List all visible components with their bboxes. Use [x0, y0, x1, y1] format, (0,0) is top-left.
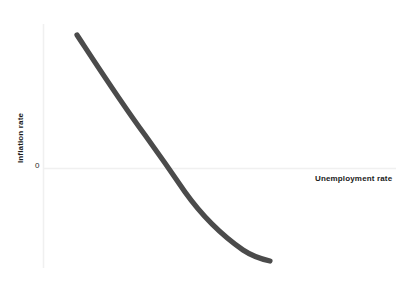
x-axis-label: Unemployment rate	[315, 174, 392, 183]
chart-canvas	[0, 0, 420, 285]
y-axis-zero-tick-label: 0	[35, 161, 40, 170]
phillips-curve-path	[77, 35, 270, 261]
y-axis-label: Inflation rate	[14, 110, 28, 166]
phillips-curve-chart: Inflation rate Unemployment rate 0	[0, 0, 420, 285]
y-axis-label-text: Inflation rate	[14, 113, 28, 163]
